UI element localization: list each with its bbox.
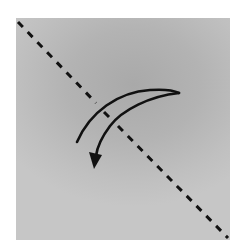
fold-arrow-icon: [77, 90, 179, 169]
diagram-overlay: [0, 0, 242, 250]
fold-diagram: [0, 0, 242, 250]
fold-line: [18, 22, 228, 238]
